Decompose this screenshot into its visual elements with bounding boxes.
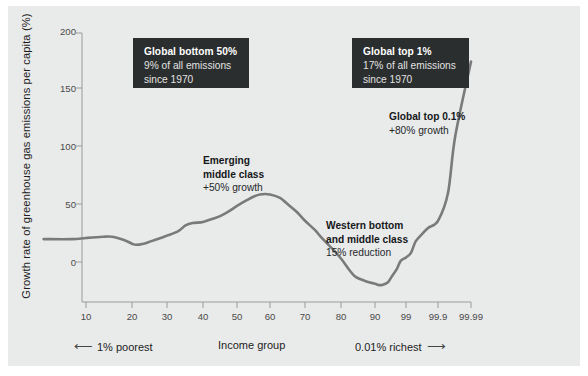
annotation-title-line-2: and middle class [326, 233, 408, 247]
callout-line-2: since 1970 [363, 73, 459, 87]
footer-right-note: 0.01% richest ⟶ [355, 339, 445, 354]
annotation-western-bottom-middle-class: Western bottom and middle class 15% redu… [326, 219, 408, 260]
annotation-title-line-2: middle class [203, 168, 264, 182]
annotation-title-line-1: Western bottom [326, 219, 408, 233]
callout-line-1: 9% of all emissions [144, 59, 239, 73]
callout-title: Global bottom 50% [144, 45, 239, 59]
annotation-global-top-01: Global top 0.1% +80% growth [389, 110, 465, 137]
chart-figure: Growth rate of greenhouse gas emissions … [0, 0, 588, 376]
footer-left-note: ⟵ 1% poorest [74, 339, 153, 354]
callout-title: Global top 1% [363, 45, 459, 59]
annotation-value: +50% growth [203, 181, 264, 195]
annotation-value: 15% reduction [326, 246, 408, 260]
callout-global-bottom-50: Global bottom 50% 9% of all emissions si… [133, 38, 249, 88]
callout-line-1: 17% of all emissions [363, 59, 459, 73]
x-axis-title-text: Income group [218, 339, 285, 351]
y-axis-ticks [76, 33, 82, 262]
annotation-emerging-middle-class: Emerging middle class +50% growth [203, 154, 264, 195]
annotation-value: +80% growth [389, 124, 465, 138]
annotation-title-line-1: Global top 0.1% [389, 110, 465, 124]
callout-line-2: since 1970 [144, 73, 239, 87]
footer-right-text: 0.01% richest [355, 341, 422, 353]
arrow-right-icon: ⟶ [427, 339, 445, 354]
annotation-title-line-1: Emerging [203, 154, 264, 168]
x-axis-ticks [86, 302, 471, 308]
chart-plot-area [0, 0, 588, 376]
callout-global-top-1: Global top 1% 17% of all emissions since… [352, 38, 469, 88]
arrow-left-icon: ⟵ [74, 339, 92, 354]
footer-left-text: 1% poorest [97, 341, 153, 353]
footer-center-note: Income group [218, 339, 285, 351]
